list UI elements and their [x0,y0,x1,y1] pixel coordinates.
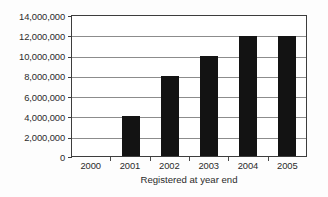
x-tick-label-2004: 2004 [228,160,267,171]
y-tick-label: 4,000,000 [0,112,65,123]
x-tick-label-2000: 2000 [71,160,110,171]
bar-slot-2002 [150,16,189,156]
bar-chart-figure: 14,000,000 12,000,000 10,000,000 8,000,0… [0,0,328,197]
y-tick-label: 14,000,000 [0,11,65,22]
bar-slot-2000 [72,16,111,156]
y-tick-label: 12,000,000 [0,31,65,42]
y-tick-label: 8,000,000 [0,71,65,82]
bar-slot-2005 [267,16,306,156]
bar [161,76,179,156]
bar-slot-2001 [111,16,150,156]
y-tick-label: 0 [0,152,65,163]
x-tick-label-2005: 2005 [268,160,307,171]
bar [278,36,296,156]
x-axis-title: Registered at year end [71,174,307,185]
bar [200,56,218,156]
bar-slot-2003 [189,16,228,156]
y-tick-label: 2,000,000 [0,132,65,143]
plot-area [71,15,307,157]
x-tick-label-2003: 2003 [189,160,228,171]
y-tick-label: 6,000,000 [0,92,65,103]
y-tick-label: 10,000,000 [0,51,65,62]
x-tick-label-2002: 2002 [150,160,189,171]
x-axis-labels: 2000 2001 2002 2003 2004 2005 [71,160,307,171]
bar-slot-2004 [228,16,267,156]
bar [122,116,140,156]
bars-layer [72,16,306,156]
x-tick-label-2001: 2001 [110,160,149,171]
bar [239,36,257,156]
